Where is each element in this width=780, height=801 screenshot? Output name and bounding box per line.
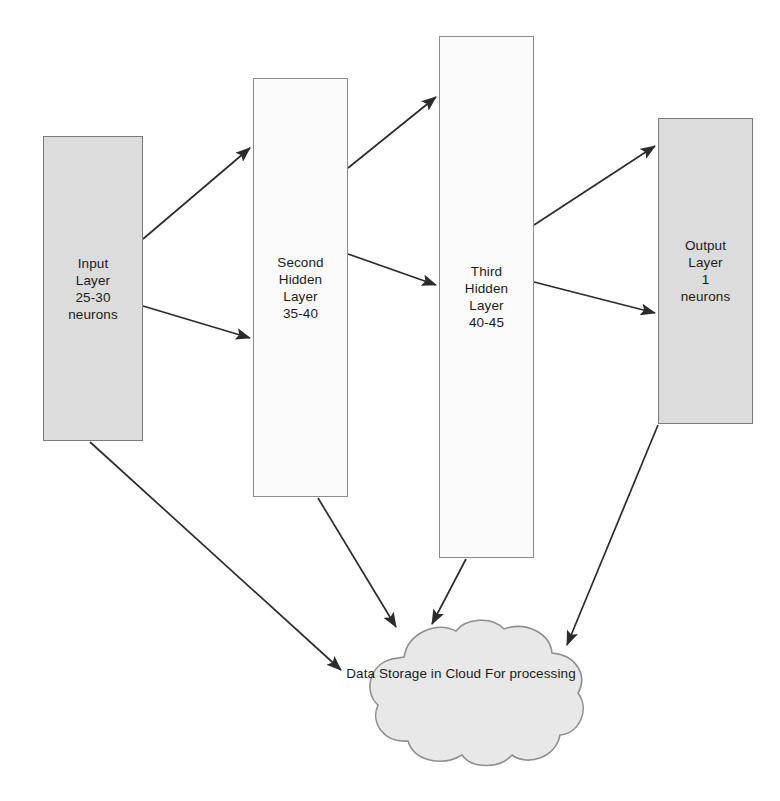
- second-hidden-layer-line-1: Second: [277, 254, 323, 271]
- edge-input-to-second-upper: [143, 148, 250, 239]
- second-hidden-layer-box[interactable]: Second Hidden Layer 35-40: [253, 78, 348, 497]
- third-hidden-layer-line-2: Hidden: [465, 280, 508, 297]
- output-layer-line-1: Output: [685, 237, 726, 254]
- output-layer-line-2: Layer: [688, 254, 722, 271]
- edge-input-to-second-lower: [143, 306, 250, 338]
- input-layer-box[interactable]: Input Layer 25-30 neurons: [43, 136, 143, 441]
- cloud-shape-icon: [330, 617, 592, 771]
- third-hidden-layer-box[interactable]: Third Hidden Layer 40-45: [439, 36, 534, 558]
- third-hidden-layer-line-3: Layer: [469, 297, 503, 314]
- edge-second-to-cloud: [318, 498, 396, 627]
- third-hidden-layer-line-1: Third: [471, 263, 502, 280]
- edge-output-to-cloud: [567, 425, 658, 645]
- cloud-storage-label: Data Storage in Cloud For processing: [344, 665, 578, 683]
- second-hidden-layer-line-2: Hidden: [279, 271, 322, 288]
- output-layer-line-3: 1: [702, 271, 710, 288]
- input-layer-line-4: neurons: [68, 306, 118, 323]
- diagram-canvas: Input Layer 25-30 neurons Second Hidden …: [0, 0, 780, 801]
- second-hidden-layer-line-3: Layer: [283, 288, 317, 305]
- input-layer-line-1: Input: [78, 255, 109, 272]
- cloud-storage-line-2: processing: [509, 666, 575, 681]
- edge-third-to-output-lower: [534, 282, 655, 313]
- edge-third-to-output-upper: [534, 146, 655, 225]
- edge-second-to-third-lower: [348, 254, 436, 285]
- second-hidden-layer-line-4: 35-40: [283, 305, 318, 322]
- output-layer-line-4: neurons: [681, 288, 731, 305]
- edge-second-to-third-upper: [348, 97, 436, 168]
- cloud-storage-node[interactable]: Data Storage in Cloud For processing: [330, 617, 592, 771]
- third-hidden-layer-line-4: 40-45: [469, 314, 504, 331]
- input-layer-line-3: 25-30: [75, 289, 110, 306]
- edge-third-to-cloud: [432, 559, 466, 624]
- output-layer-box[interactable]: Output Layer 1 neurons: [658, 118, 753, 424]
- cloud-storage-line-1: Data Storage in Cloud For: [346, 666, 505, 681]
- input-layer-line-2: Layer: [76, 272, 110, 289]
